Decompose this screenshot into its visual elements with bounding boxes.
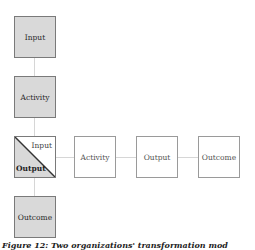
activity-box-label: Activity bbox=[21, 93, 50, 102]
output-box-label: Output bbox=[144, 153, 171, 162]
figure-caption: Figure 12: Two organizations' transforma… bbox=[2, 240, 228, 250]
split-top-label: Input bbox=[32, 141, 52, 150]
outcome-box-left-label: Outcome bbox=[18, 213, 52, 222]
input-output-split-box: Input Output bbox=[14, 136, 56, 178]
outcome-box-right: Outcome bbox=[198, 136, 240, 178]
activity-box: Activity bbox=[14, 76, 56, 118]
connector-split-activity bbox=[56, 157, 74, 158]
connector-output-outcome bbox=[178, 157, 198, 158]
input-box-label: Input bbox=[25, 33, 45, 42]
connector-activity-split bbox=[34, 118, 35, 136]
outcome-box-left: Outcome bbox=[14, 196, 56, 238]
input-box: Input bbox=[14, 16, 56, 58]
output-box: Output bbox=[136, 136, 178, 178]
connector-activity-output bbox=[116, 157, 136, 158]
activity-box-right-label: Activity bbox=[81, 153, 110, 162]
split-bottom-label: Output bbox=[16, 164, 46, 173]
activity-box-right: Activity bbox=[74, 136, 116, 178]
connector-input-activity bbox=[34, 58, 35, 76]
connector-split-outcome bbox=[34, 178, 35, 196]
outcome-box-right-label: Outcome bbox=[202, 153, 236, 162]
